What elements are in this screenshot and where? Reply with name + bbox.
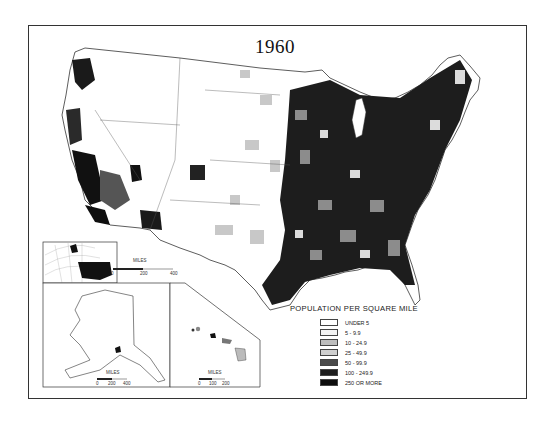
legend-swatch (320, 369, 338, 376)
scale-tick-main-0: 0 (111, 271, 114, 276)
scale-bar-alaska (97, 378, 127, 380)
legend-swatch (320, 329, 338, 336)
scale-bar-hawaii (199, 378, 225, 380)
conterminous-us (62, 48, 480, 310)
scale-tick-alaska-0: 0 (96, 381, 99, 386)
legend-item-25-49: 25 - 49.9 (320, 348, 367, 357)
map-graphic (0, 0, 550, 423)
scale-unit-alaska: MILES (106, 370, 120, 375)
scale-tick-main-1: 200 (140, 271, 148, 276)
scale-tick-hawaii-1: 100 (209, 381, 217, 386)
legend-swatch (320, 319, 338, 326)
legend-swatch (320, 359, 338, 366)
legend-swatch (320, 379, 338, 386)
scale-bar-main (113, 268, 173, 270)
legend-item-50-99: 50 - 99.9 (320, 358, 367, 367)
legend-item-under-5: UNDER 5 (320, 318, 369, 327)
scale-tick-alaska-1: 200 (108, 381, 116, 386)
legend-item-100-249: 100 - 249.9 (320, 368, 373, 377)
scale-tick-alaska-2: 400 (123, 381, 131, 386)
legend: POPULATION PER SQUARE MILE UNDER 5 5 - 9… (290, 304, 430, 313)
legend-title: POPULATION PER SQUARE MILE (290, 304, 430, 313)
legend-item-5-9: 5 - 9.9 (320, 328, 361, 337)
legend-swatch (320, 349, 338, 356)
legend-item-10-24: 10 - 24.9 (320, 338, 367, 347)
scale-tick-hawaii-0: 0 (198, 381, 201, 386)
inset-world-locator (43, 242, 117, 283)
scale-tick-hawaii-2: 200 (222, 381, 230, 386)
scale-unit-main: MILES (133, 258, 147, 263)
legend-swatch (320, 339, 338, 346)
legend-item-250-plus: 250 OR MORE (320, 378, 382, 387)
scale-tick-main-2: 400 (170, 271, 178, 276)
scale-unit-hawaii: MILES (208, 370, 222, 375)
